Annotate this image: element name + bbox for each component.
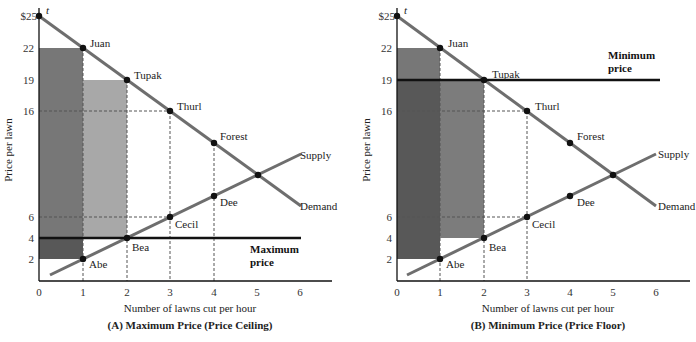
panel-b-x-ticks: 0 1 2 3 4 5 6 [394, 286, 659, 298]
svg-text:22: 22 [381, 42, 392, 54]
panel-a-y-ticks: $25 22 19 16 6 4 2 [21, 10, 38, 265]
panel-b-x-axis-label: Number of lawns cut per hour [482, 302, 615, 314]
panel-b-y-ticks: $25 22 19 16 6 4 2 [379, 10, 396, 265]
label-tupak: Tupak [492, 68, 520, 80]
point-abe [437, 256, 443, 262]
svg-text:5: 5 [254, 286, 260, 298]
point-equilibrium [610, 172, 616, 178]
point-bea [481, 235, 487, 241]
point-dee [211, 193, 217, 199]
point-juan [80, 45, 86, 51]
panel-a: t Juan Tupak Thurl Forest Supply Demand … [2, 4, 338, 332]
panel-a-caption: (A) Maximum Price (Price Ceiling) [108, 319, 273, 332]
point-abe [80, 256, 86, 262]
svg-text:1: 1 [80, 286, 86, 298]
label-supply: Supply [658, 148, 690, 160]
panel-a-x-axis-label: Number of lawns cut per hour [124, 302, 257, 314]
panel-b-shade-tupak [440, 80, 484, 238]
svg-text:22: 22 [23, 42, 34, 54]
panel-a-shade-juan-below-ceiling [39, 238, 83, 259]
point-dee [567, 193, 573, 199]
svg-text:0: 0 [36, 286, 42, 298]
label-thurl: Thurl [535, 100, 559, 112]
svg-text:19: 19 [23, 74, 35, 86]
panel-b-shade-juan-above-floor [397, 48, 440, 80]
svg-text:4: 4 [211, 286, 217, 298]
panel-a-shade-juan-above-ceiling [39, 48, 83, 238]
label-forest: Forest [577, 130, 605, 142]
svg-text:2: 2 [124, 286, 130, 298]
label-demand: Demand [658, 200, 696, 212]
svg-text:6: 6 [387, 211, 393, 223]
label-cecil: Cecil [175, 218, 198, 230]
label-dee: Dee [220, 196, 238, 208]
point-thurl [167, 108, 173, 114]
label-thurl: Thurl [177, 100, 201, 112]
panel-a-x-ticks: 0 1 2 3 4 5 6 [36, 286, 303, 298]
svg-text:4: 4 [387, 232, 393, 244]
price-controls-figure: t Juan Tupak Thurl Forest Supply Demand … [0, 0, 696, 342]
label-juan: Juan [90, 37, 111, 49]
label-t: t [46, 4, 50, 16]
svg-text:3: 3 [524, 286, 530, 298]
panel-b: t Juan Tupak Thurl Forest Supply Demand … [360, 4, 696, 332]
label-maximum-price-1: Maximum [250, 243, 299, 255]
label-juan: Juan [448, 37, 469, 49]
point-forest [567, 140, 573, 146]
point-bea [124, 235, 130, 241]
svg-text:19: 19 [381, 74, 393, 86]
label-forest: Forest [220, 130, 248, 142]
label-abe: Abe [89, 258, 107, 270]
label-maximum-price-2: price [250, 256, 274, 268]
label-dee: Dee [577, 196, 595, 208]
svg-text:5: 5 [610, 286, 616, 298]
svg-text:4: 4 [29, 232, 35, 244]
point-equilibrium [255, 172, 261, 178]
panel-b-shade-juan-below-floor [397, 80, 440, 259]
svg-text:$25: $25 [379, 10, 396, 22]
panel-b-caption: (B) Minimum Price (Price Floor) [471, 319, 626, 332]
label-cecil: Cecil [532, 218, 555, 230]
point-thurl [524, 108, 530, 114]
point-cecil [167, 214, 173, 220]
label-minimum-price-1: Minimum [608, 49, 655, 61]
svg-text:$25: $25 [21, 10, 38, 22]
svg-text:6: 6 [29, 211, 35, 223]
svg-text:16: 16 [381, 105, 393, 117]
svg-text:0: 0 [394, 286, 400, 298]
svg-text:1: 1 [437, 286, 443, 298]
label-t: t [404, 4, 408, 16]
svg-text:3: 3 [167, 286, 173, 298]
panel-a-y-axis-label: Price per lawn [2, 118, 14, 182]
panel-a-shade-tupak [83, 80, 127, 238]
svg-text:16: 16 [23, 105, 35, 117]
label-supply: Supply [300, 149, 332, 161]
point-tupak [124, 77, 130, 83]
svg-text:2: 2 [387, 253, 393, 265]
point-tupak [481, 77, 487, 83]
label-demand: Demand [300, 200, 338, 212]
label-tupak: Tupak [134, 69, 162, 81]
label-bea: Bea [489, 241, 506, 253]
svg-text:2: 2 [29, 253, 35, 265]
panel-b-y-axis-label: Price per lawn [360, 118, 372, 182]
point-juan [437, 45, 443, 51]
label-abe: Abe [446, 258, 464, 270]
svg-text:4: 4 [567, 286, 573, 298]
svg-text:2: 2 [481, 286, 487, 298]
svg-text:6: 6 [297, 286, 303, 298]
point-cecil [524, 214, 530, 220]
point-forest [211, 140, 217, 146]
label-minimum-price-2: price [608, 62, 632, 74]
svg-text:6: 6 [653, 286, 659, 298]
label-bea: Bea [132, 241, 149, 253]
